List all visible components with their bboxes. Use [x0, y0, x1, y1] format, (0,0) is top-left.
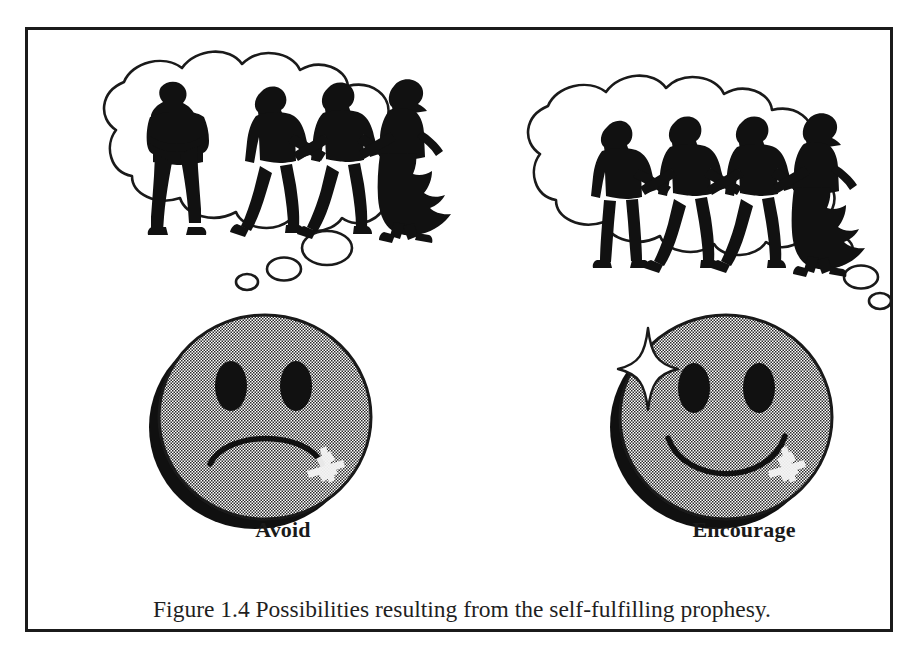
- panel-label-avoid: Avoid: [133, 517, 433, 543]
- sad-face-icon: [149, 315, 371, 529]
- happy-face-left-eye: [678, 363, 710, 413]
- figure-frame-border: Avoid Encourage Figure 1.4 Possibilities…: [25, 27, 893, 632]
- sad-face-disc: [159, 315, 371, 519]
- thought-bubble-avoid: [104, 52, 451, 290]
- figure-caption: Figure 1.4 Possibilities resulting from …: [28, 596, 896, 623]
- happy-face-right-eye: [743, 363, 775, 413]
- figure-root: Avoid Encourage Figure 1.4 Possibilities…: [0, 0, 917, 651]
- sad-face-right-eye: [280, 361, 312, 411]
- thought-bubble-encourage: [528, 76, 891, 309]
- panel-encourage: [528, 76, 891, 529]
- panel-label-encourage: Encourage: [594, 517, 894, 543]
- thought-bubble-tail-circle-3: [236, 274, 258, 290]
- illustration-canvas: [28, 30, 896, 635]
- thought-bubble-tail-circle-3: [869, 293, 891, 309]
- panel-avoid: [104, 52, 451, 529]
- sad-face-left-eye: [215, 361, 247, 411]
- happy-face-icon: [610, 315, 832, 529]
- thought-bubble-tail-circle-2: [844, 266, 878, 289]
- thought-bubble-tail-circle-2: [267, 258, 301, 281]
